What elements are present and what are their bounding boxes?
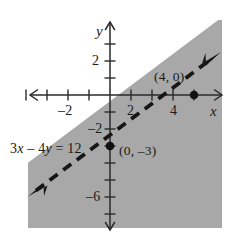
point-4-0 xyxy=(190,91,199,100)
x-tick-label-4: 4 xyxy=(170,104,177,118)
eq-constant: 12 xyxy=(67,141,81,156)
x-tick-label-2: 2 xyxy=(127,104,134,118)
y-tick-label-neg2: –2 xyxy=(88,122,102,136)
y-tick-label-2: 2 xyxy=(92,54,99,68)
y-axis-label: y xyxy=(96,24,103,39)
eq-equals: = xyxy=(52,141,68,156)
shaded-region xyxy=(0,0,240,238)
y-tick-label-neg6: –6 xyxy=(86,190,100,204)
point-0-neg3 xyxy=(106,142,115,151)
point-label-0-neg3: (0, –3) xyxy=(119,144,156,158)
coordinate-plane-svg xyxy=(0,0,240,238)
x-tick-label-neg2: –2 xyxy=(58,104,72,118)
graph-figure: y x –2 2 4 2 –2 –6 (4, 0) (0, –3) 3x – 4… xyxy=(0,0,240,238)
eq-minus: – xyxy=(24,141,39,156)
boundary-line-equation-label: 3x – 4y = 12 xyxy=(10,142,82,156)
x-axis-label: x xyxy=(210,104,217,119)
point-label-4-0: (4, 0) xyxy=(154,70,184,84)
